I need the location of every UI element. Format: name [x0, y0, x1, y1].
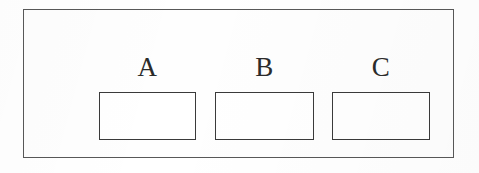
outer-frame: A B C: [23, 9, 454, 158]
box-rect-c[interactable]: [332, 92, 430, 140]
box-cell-b: B: [215, 50, 314, 141]
box-label-a: A: [99, 50, 196, 90]
box-rect-a[interactable]: [99, 92, 196, 140]
box-label-b: B: [215, 50, 314, 90]
box-cell-a: A: [99, 50, 196, 141]
figure-canvas: A B C: [0, 0, 479, 173]
box-group: A B C: [99, 50, 430, 141]
box-rect-b[interactable]: [215, 92, 314, 140]
box-label-c: C: [332, 50, 430, 90]
box-cell-c: C: [332, 50, 430, 141]
